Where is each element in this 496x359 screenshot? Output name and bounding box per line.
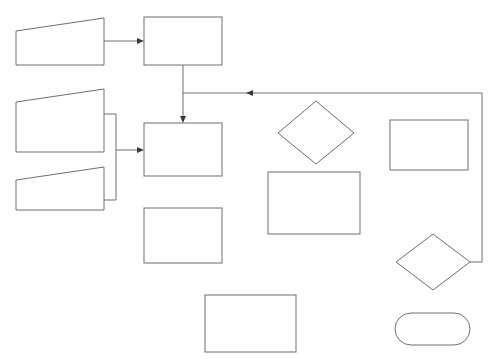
flowchart-canvas bbox=[0, 0, 496, 359]
input-shape-emr bbox=[16, 18, 104, 65]
process-box-system-loss bbox=[144, 208, 222, 263]
process-box-path-loss bbox=[144, 17, 222, 65]
process-box-propagation-loss bbox=[205, 295, 296, 352]
terminator-proceed bbox=[395, 313, 470, 345]
input-shape-antenna-locations bbox=[16, 167, 104, 210]
process-box-coverage-range bbox=[268, 172, 360, 234]
process-box-geometry bbox=[390, 120, 468, 170]
decision-geometry-fulfilled bbox=[396, 234, 470, 290]
flowchart-graphics bbox=[0, 0, 496, 359]
input-shape-building-drawings bbox=[16, 89, 104, 152]
process-box-antenna-location bbox=[144, 123, 222, 176]
decision-coverage-fulfilled bbox=[278, 101, 354, 164]
